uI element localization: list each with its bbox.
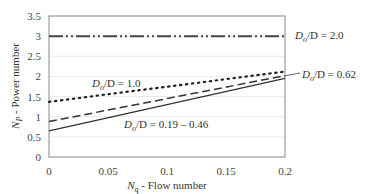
y-tick-label: 1	[36, 111, 42, 123]
y-tick-label: 2	[36, 70, 42, 82]
x-tick-label: 0.1	[160, 165, 174, 177]
x-axis-label: Nq - Flow number	[126, 179, 207, 194]
x-tick-label: 0.05	[98, 165, 118, 177]
y-axis-label: NP - Power number	[9, 43, 24, 130]
y-tick-label: 1.5	[27, 91, 41, 103]
annotation-do-d-0-19-0-46: Do/D = 0.19 – 0.46	[123, 118, 209, 133]
y-tick-label: 3	[36, 30, 42, 42]
y-tick-label: 0.5	[27, 131, 41, 143]
x-tick-label: 0.15	[216, 165, 236, 177]
y-axis: 00.511.522.533.5	[27, 10, 41, 163]
x-tick-label: 0	[46, 165, 52, 177]
y-tick-label: 0	[36, 151, 42, 163]
y-tick-label: 2.5	[27, 50, 41, 62]
annotation-do-d-0-62: Do/D = 0.62	[301, 68, 356, 83]
annotation-leader-0-62	[284, 73, 300, 76]
y-tick-label: 3.5	[27, 10, 41, 22]
annotation-do-d-2-0: Do/D = 2.0	[294, 29, 344, 44]
series-line-dashed	[49, 76, 285, 122]
x-tick-label: 0.2	[278, 165, 292, 177]
annotation-do-d-1-0: Do/D = 1.0	[91, 77, 141, 92]
x-axis: 00.050.10.150.2	[46, 165, 292, 177]
chart: 00.511.522.533.5 00.050.10.150.2 NP - Po…	[0, 0, 365, 194]
